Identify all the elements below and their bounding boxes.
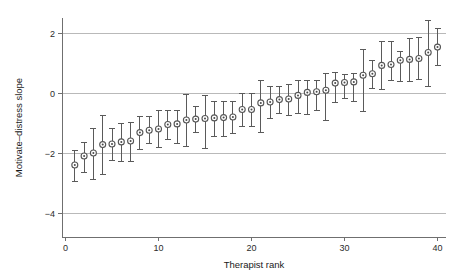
- marker-center-dot: [213, 117, 215, 119]
- data-point: [90, 150, 96, 156]
- marker-center-dot: [344, 82, 346, 84]
- data-point: [165, 122, 171, 128]
- data-point: [239, 107, 245, 113]
- data-point: [81, 153, 87, 159]
- data-point: [156, 126, 162, 132]
- error-bar: [314, 81, 320, 111]
- x-tick-label: 30: [339, 243, 349, 253]
- marker-center-dot: [288, 98, 290, 100]
- marker-center-dot: [381, 64, 383, 66]
- y-axis-title: Motivate–distress slope: [13, 78, 24, 177]
- data-point: [360, 72, 366, 78]
- data-point: [379, 62, 385, 68]
- marker-center-dot: [130, 140, 132, 142]
- marker-center-dot: [251, 109, 253, 111]
- marker-center-dot: [83, 155, 85, 157]
- data-point: [314, 89, 320, 95]
- y-tick-label: 2: [50, 29, 55, 39]
- x-tick-label: 20: [246, 243, 256, 253]
- marker-center-dot: [74, 164, 76, 166]
- data-point: [323, 87, 329, 93]
- marker-center-dot: [167, 124, 169, 126]
- marker-center-dot: [427, 52, 429, 54]
- axis-lines: [62, 18, 446, 238]
- data-point: [425, 50, 431, 56]
- data-point: [249, 107, 255, 113]
- error-bar: [332, 73, 338, 103]
- error-bar: [342, 74, 348, 99]
- data-point: [342, 80, 348, 86]
- y-tick-label: 0: [50, 89, 55, 99]
- data-point: [397, 57, 403, 63]
- data-point: [416, 56, 422, 62]
- data-point: [332, 80, 338, 86]
- marker-center-dot: [195, 118, 197, 120]
- scatter-error-bar-chart: 20−2−4010203040 Motivate–distress slopeT…: [0, 0, 455, 277]
- marker-center-dot: [278, 99, 280, 101]
- error-bars: [72, 21, 441, 181]
- data-point: [388, 62, 394, 68]
- marker-center-dot: [334, 82, 336, 84]
- marker-center-dot: [102, 144, 104, 146]
- error-bar: [323, 73, 329, 120]
- marker-center-dot: [316, 91, 318, 93]
- marker-center-dot: [148, 129, 150, 131]
- marker-center-dot: [353, 81, 355, 83]
- error-bar: [304, 80, 310, 115]
- marker-center-dot: [232, 116, 234, 118]
- data-point: [286, 96, 292, 102]
- marker-center-dot: [306, 91, 308, 93]
- marker-center-dot: [325, 89, 327, 91]
- marker-center-dot: [362, 74, 364, 76]
- marker-center-dot: [269, 101, 271, 103]
- marker-center-dot: [390, 64, 392, 66]
- x-axis-title: Therapist rank: [224, 259, 285, 270]
- marker-center-dot: [223, 117, 225, 119]
- marker-center-dot: [399, 59, 401, 61]
- marker-center-dot: [418, 58, 420, 60]
- data-point: [276, 97, 282, 103]
- marker-center-dot: [92, 152, 94, 154]
- data-point: [211, 115, 217, 121]
- data-point: [304, 89, 310, 95]
- marker-center-dot: [409, 58, 411, 60]
- marker-center-dot: [120, 141, 122, 143]
- data-point: [258, 100, 264, 106]
- data-point: [351, 79, 357, 85]
- data-point: [174, 121, 180, 127]
- data-point: [230, 114, 236, 120]
- marker-center-dot: [176, 123, 178, 125]
- data-point: [109, 141, 115, 147]
- data-point: [435, 44, 441, 50]
- x-tick-label: 40: [432, 243, 442, 253]
- data-point: [183, 117, 189, 123]
- data-point: [72, 162, 78, 168]
- marker-center-dot: [260, 102, 262, 104]
- x-tick-label: 0: [63, 243, 68, 253]
- error-bar: [351, 73, 357, 102]
- marker-center-dot: [371, 73, 373, 75]
- error-bar: [360, 49, 366, 111]
- marker-center-dot: [158, 128, 160, 130]
- data-point: [100, 142, 106, 148]
- data-point: [128, 138, 134, 144]
- data-point: [221, 115, 227, 121]
- data-point: [202, 116, 208, 122]
- data-point-markers: [72, 44, 441, 168]
- marker-center-dot: [297, 94, 299, 96]
- marker-center-dot: [139, 132, 141, 134]
- marker-center-dot: [111, 143, 113, 145]
- data-point: [137, 130, 143, 136]
- marker-center-dot: [437, 46, 439, 48]
- data-point: [407, 56, 413, 62]
- marker-center-dot: [204, 118, 206, 120]
- marker-center-dot: [185, 119, 187, 121]
- data-point: [146, 127, 152, 133]
- marker-center-dot: [241, 109, 243, 111]
- data-point: [295, 92, 301, 98]
- x-tick-label: 10: [153, 243, 163, 253]
- y-tick-label: −2: [45, 149, 55, 159]
- data-point: [193, 116, 199, 122]
- data-point: [369, 71, 375, 77]
- chart-figure: 20−2−4010203040 Motivate–distress slopeT…: [0, 0, 455, 277]
